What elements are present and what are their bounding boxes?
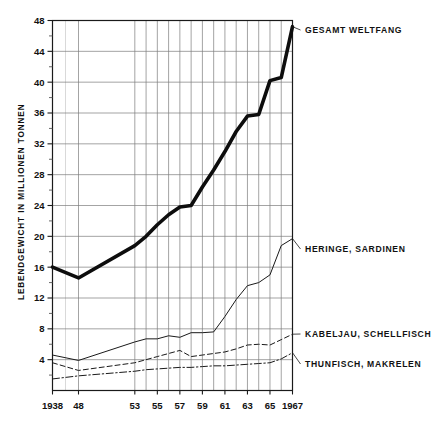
y-tick-label: 36 (34, 107, 45, 118)
x-tick-label: 48 (73, 400, 84, 411)
y-tick-label: 12 (34, 292, 45, 303)
y-tick-label: 32 (34, 138, 45, 149)
series-label-heringe-sardinen: HERINGE, SARDINEN (305, 244, 406, 254)
y-axis-title: LEBENDGEWICHT IN MILLIONEN TONNEN (17, 104, 26, 300)
x-tick-label: 57 (175, 400, 186, 411)
x-tick-label: 61 (220, 400, 231, 411)
x-tick-label: 65 (265, 400, 276, 411)
y-tick-label: 4 (39, 354, 45, 365)
x-tick-label: 1938 (42, 400, 63, 411)
y-tick-label: 44 (34, 46, 45, 57)
series-label-kabeljau-schellfisch: KABELJAU, SCHELLFISCH (305, 329, 431, 339)
x-tick-label: 63 (242, 400, 253, 411)
y-tick-label: 48 (34, 15, 45, 26)
y-tick-label: 16 (34, 262, 45, 273)
y-tick-label: 40 (34, 77, 45, 88)
x-tick-label: 1967 (282, 400, 303, 411)
x-tick-label: 59 (197, 400, 208, 411)
y-tick-label: 8 (39, 323, 44, 334)
y-tick-label: 28 (34, 169, 45, 180)
series-label-thunfisch-makrelen: THUNFISCH, MAKRELEN (305, 359, 421, 369)
y-tick-label: 20 (34, 231, 45, 242)
fishery-catch-line-chart: 4812162024283236404448 19384853555759616… (0, 0, 437, 432)
x-tick-label: 53 (130, 400, 141, 411)
y-tick-label: 24 (34, 200, 45, 211)
x-tick-label: 55 (152, 400, 163, 411)
chart-svg: 4812162024283236404448 19384853555759616… (0, 0, 437, 432)
series-label-gesamt-weltfang: GESAMT WELTFANG (305, 25, 402, 35)
